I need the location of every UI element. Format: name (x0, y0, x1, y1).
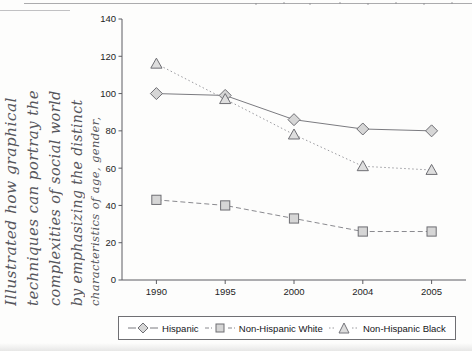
y-tick-label: 100 (100, 88, 116, 99)
x-tick-label: 2004 (352, 286, 373, 297)
legend-marker-triangle-icon (329, 321, 359, 335)
y-tick-label: 60 (105, 163, 116, 174)
data-point-square (152, 195, 161, 204)
legend-item-non-hispanic-white[interactable]: Non-Hispanic White (205, 321, 323, 335)
y-tick-label: 120 (100, 51, 116, 62)
data-point-square (221, 201, 230, 210)
x-tick-label: 2005 (421, 286, 442, 297)
annotation-line-2: techniques can portray the (24, 90, 42, 306)
data-point-triangle (357, 161, 368, 171)
x-tick-label: 1990 (146, 286, 167, 297)
legend-label-non-hispanic-white: Non-Hispanic White (239, 323, 323, 334)
annotation-line-4: by emphasizing the distinct (69, 99, 85, 306)
legend-label-hispanic: Hispanic (162, 323, 198, 334)
data-point-square (289, 214, 298, 223)
legend-item-non-hispanic-black[interactable]: Non-Hispanic Black (329, 321, 446, 335)
data-point-diamond (288, 114, 300, 126)
line-chart: 02040608010012014019901995200020042005 (96, 8, 472, 308)
legend-marker-diamond-icon (128, 321, 158, 335)
scan-dot-artifacts (248, 0, 472, 7)
y-tick-label: 140 (100, 13, 116, 24)
legend-item-hispanic[interactable]: Hispanic (128, 321, 198, 335)
x-tick-label: 1995 (215, 286, 236, 297)
annotation-line-1: Illustrated how graphical (2, 97, 20, 306)
scanned-chart-page: Illustrated how graphical techniques can… (0, 0, 472, 351)
data-point-square (427, 227, 436, 236)
data-point-triangle (288, 129, 299, 139)
y-tick-label: 0 (111, 274, 116, 285)
data-point-diamond (357, 123, 369, 135)
data-point-triangle (151, 58, 162, 68)
chart-legend: Hispanic Non-Hispanic White Non-Hispanic… (118, 316, 456, 340)
y-tick-label: 80 (105, 125, 116, 136)
data-point-triangle (426, 164, 437, 174)
data-point-square (358, 227, 367, 236)
annotation-line-3: complexities of social world (47, 90, 63, 306)
y-tick-label: 20 (105, 237, 116, 248)
data-point-diamond (150, 88, 162, 100)
legend-marker-square-icon (205, 321, 235, 335)
legend-label-non-hispanic-black: Non-Hispanic Black (363, 323, 446, 334)
data-point-diamond (426, 125, 438, 137)
x-tick-label: 2000 (283, 286, 304, 297)
scan-edge-shadow (0, 343, 472, 351)
y-tick-label: 40 (105, 200, 116, 211)
chart-canvas: 02040608010012014019901995200020042005 (96, 8, 472, 308)
